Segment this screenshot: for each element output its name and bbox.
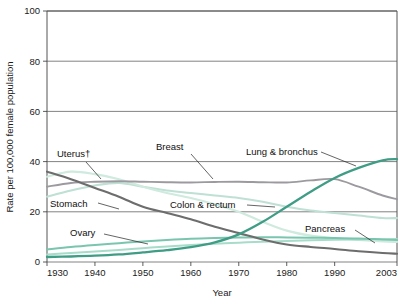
breast-label: Breast [156,141,184,152]
y-tick-label: 20 [29,206,40,217]
y-axis-ticks: 020406080100 [24,5,47,267]
x-axis-title: Year [212,287,231,298]
breast-label-leader [191,154,213,179]
x-tick-label: 1980 [276,267,297,278]
x-tick-label: 1960 [180,267,201,278]
chart-canvas: 020406080100 193019401950196019701980199… [0,0,414,304]
y-tick-label: 60 [29,106,40,117]
y-tick-label: 100 [24,5,40,16]
colon-label: Colon & rectum [170,199,236,210]
stomach-label-leader [98,203,119,209]
colon-label-leader [247,205,275,207]
x-tick-label: 1950 [132,267,153,278]
x-tick-label: 1940 [84,267,105,278]
x-tick-label: 1930 [47,267,68,278]
uterus-label: Uterus† [57,148,90,159]
stomach-label: Stomach [50,198,88,209]
y-axis-title: Rate per 100,000 female population [4,61,15,212]
x-tick-label: 1990 [324,267,345,278]
y-tick-label: 80 [29,56,40,67]
pancreas-label: Pancreas [305,223,345,234]
x-axis-ticks: 19301940195019601970198019902003 [47,262,397,278]
series-annotations: Uterus†BreastLung & bronchusStomachColon… [50,141,345,238]
cancer-death-rates-chart: 020406080100 193019401950196019701980199… [0,0,414,304]
x-tick-label: 2003 [376,267,397,278]
x-tick-label: 1970 [228,267,249,278]
lung-label: Lung & bronchus [246,146,318,157]
uterus-label-leader [86,162,101,179]
y-tick-label: 40 [29,156,40,167]
lung-label-leader [321,152,356,166]
y-tick-label: 0 [35,256,40,267]
ovary-label: Ovary [70,227,96,238]
